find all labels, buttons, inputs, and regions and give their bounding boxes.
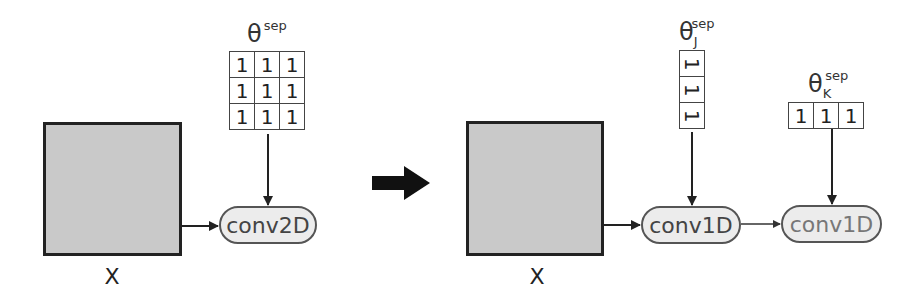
kernel-cell: 1	[789, 103, 814, 129]
conv1d-label-1: conv1D	[649, 213, 732, 238]
kernel-cell: 1	[280, 78, 305, 104]
conv2d-node: conv2D	[219, 206, 317, 244]
conv1d-node-1: conv1D	[641, 206, 741, 244]
kernel-cell: 1	[280, 104, 305, 130]
kernel-row: 1 1 1	[230, 104, 305, 130]
transform-arrow-icon	[372, 166, 430, 200]
kernel-row: 1 1 1	[789, 103, 864, 129]
kernel-row: 1	[680, 103, 705, 129]
input-x-label-left: X	[97, 264, 127, 289]
input-x-label-right: X	[522, 264, 552, 289]
kernel-label-theta-sep: θsep	[247, 22, 287, 46]
conv2d-label: conv2D	[226, 213, 309, 238]
conv1d-node-2: conv1D	[781, 205, 882, 243]
kernel-cell: 1	[255, 78, 280, 104]
kernel-cell: 1	[255, 52, 280, 78]
kernel-3x3-grid: 1 1 1 1 1 1 1 1 1	[229, 51, 305, 130]
kernel-label-theta-j-sep: θJsep	[679, 20, 715, 44]
kernel-row: 1	[680, 51, 705, 77]
kernel-row: 1 1 1	[230, 78, 305, 104]
kernel-cell: 1	[230, 104, 255, 130]
superscript-sep: sep	[692, 16, 715, 31]
kernel-j-column: 1 1 1	[679, 50, 705, 129]
conv1d-label-2: conv1D	[790, 212, 873, 237]
kernel-cell: 1	[230, 78, 255, 104]
kernel-cell: 1	[680, 51, 705, 77]
theta-symbol: θ	[247, 20, 262, 48]
kernel-cell: 1	[255, 104, 280, 130]
kernel-row: 1 1 1	[230, 52, 305, 78]
kernel-label-theta-k-sep: θKsep	[808, 72, 848, 96]
kernel-row: 1	[680, 77, 705, 103]
kernel-k-row: 1 1 1	[788, 102, 864, 129]
kernel-cell: 1	[680, 103, 705, 129]
input-x-square-right	[466, 121, 604, 256]
theta-symbol: θ	[808, 70, 823, 98]
subscript-k: K	[823, 86, 832, 101]
input-x-square-left	[43, 122, 182, 256]
kernel-cell: 1	[814, 103, 839, 129]
subscript-j: J	[694, 34, 698, 49]
kernel-cell: 1	[839, 103, 864, 129]
kernel-cell: 1	[680, 77, 705, 103]
kernel-cell: 1	[230, 52, 255, 78]
kernel-cell: 1	[280, 52, 305, 78]
superscript-sep: sep	[264, 18, 287, 33]
superscript-sep: sep	[825, 68, 848, 83]
